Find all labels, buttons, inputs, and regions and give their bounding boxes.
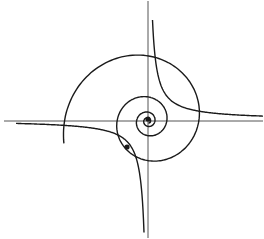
spiral-curve xyxy=(64,55,200,161)
intersection-point xyxy=(124,144,129,149)
hyperbola-branch-q3 xyxy=(16,123,144,232)
diagram-canvas xyxy=(0,0,264,239)
hyperbola-branch-q1 xyxy=(153,20,264,116)
origin-point xyxy=(145,116,150,121)
